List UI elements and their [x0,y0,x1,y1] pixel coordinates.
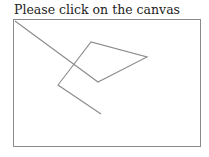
canvas-drawing [14,20,200,146]
instruction-text: Please click on the canvas [14,2,180,18]
drawn-polyline [15,21,147,114]
drawing-canvas[interactable] [13,19,201,147]
